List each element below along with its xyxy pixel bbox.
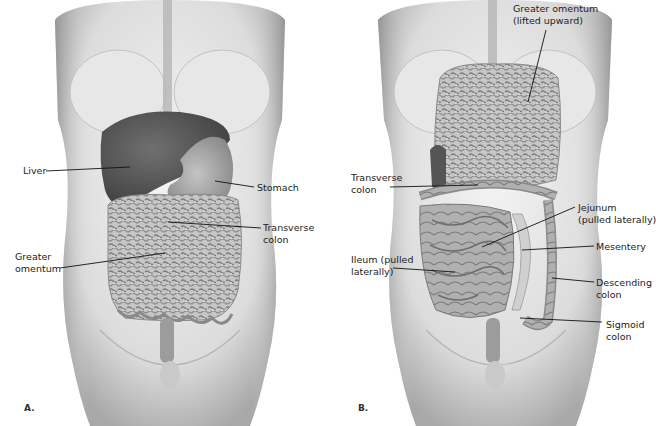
label-liver: Liver xyxy=(23,165,46,177)
label-ileum: Ileum (pulled laterally) xyxy=(351,254,414,277)
label-greater-omentum-lifted: Greater omentum (lifted upward) xyxy=(513,3,598,26)
label-greater-omentum-a: Greater omentum xyxy=(15,251,61,274)
panel-b-letter: B. xyxy=(358,403,368,413)
panel-a-letter: A. xyxy=(24,403,35,413)
label-jejunum: Jejunum (pulled laterally) xyxy=(578,202,656,225)
label-stomach: Stomach xyxy=(257,182,299,194)
panel-a-art xyxy=(55,0,285,426)
label-transverse-colon-b: Transverse colon xyxy=(351,172,402,195)
label-descending-colon: Descending colon xyxy=(596,277,652,300)
label-sigmoid-colon: Sigmoid colon xyxy=(606,319,644,342)
label-mesentery: Mesentery xyxy=(596,241,646,253)
label-transverse-colon-a: Transverse colon xyxy=(263,222,314,245)
panel-b-art xyxy=(378,0,612,426)
